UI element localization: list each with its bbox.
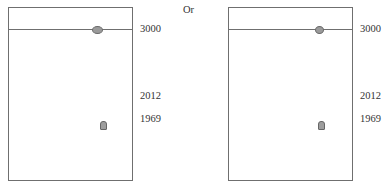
year-3000-line — [229, 29, 352, 30]
label-3000-left: 3000 — [140, 23, 161, 35]
circle-marker-icon — [315, 26, 324, 34]
label-1969-left: 1969 — [140, 113, 161, 125]
rounded-square-marker-icon — [100, 121, 107, 130]
or-separator: Or — [183, 4, 194, 16]
right-diagram-box — [228, 7, 353, 181]
label-1969-right: 1969 — [360, 113, 381, 125]
label-3000-right: 3000 — [360, 23, 381, 35]
left-diagram-box — [8, 7, 133, 181]
oval-marker-icon — [92, 26, 103, 34]
rounded-square-marker-icon — [318, 121, 325, 130]
label-2012-right: 2012 — [360, 90, 381, 102]
year-3000-line — [9, 29, 132, 30]
label-2012-left: 2012 — [140, 90, 161, 102]
